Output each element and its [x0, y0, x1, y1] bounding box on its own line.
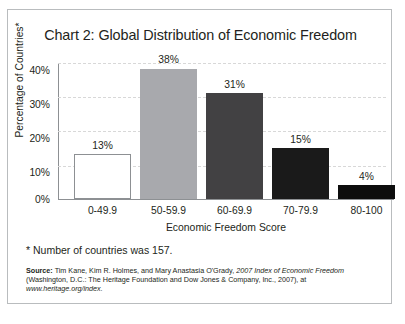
source-line-3: www.heritage.org/index. — [26, 284, 386, 293]
chart-frame: Chart 2: Global Distribution of Economic… — [7, 9, 392, 304]
plot-wrapper: Percentage of Countries* 40% 30% 20% 10%… — [8, 10, 393, 305]
source-title: 2007 Index of Economic Freedom — [236, 266, 344, 275]
plot-area: 13% 38% 31% 15% 4% — [58, 63, 386, 200]
x-tick-label-4: 80-100 — [338, 205, 395, 216]
bar-2[interactable] — [206, 93, 263, 199]
footnote: * Number of countries was 157. — [26, 244, 173, 256]
bar-value-3: 15% — [272, 134, 329, 145]
source-authors: Tim Kane, Kim R. Holmes, and Mary Anasta… — [53, 266, 236, 275]
bar-3[interactable] — [272, 148, 329, 199]
y-tick-label-10: 10% — [14, 167, 50, 178]
bar-value-0: 13% — [74, 140, 131, 151]
source-label: Source: — [26, 266, 53, 275]
x-axis-line — [58, 199, 394, 200]
bar-0[interactable] — [74, 154, 131, 199]
x-tick-label-3: 70-79.9 — [272, 205, 329, 216]
source-citation: Source: Tim Kane, Kim R. Holmes, and Mar… — [26, 266, 386, 293]
x-tick-label-2: 60-69.9 — [206, 205, 263, 216]
bar-1[interactable] — [140, 69, 197, 199]
y-tick-label-40: 40% — [14, 65, 50, 76]
bar-value-1: 38% — [140, 54, 197, 65]
x-tick-label-1: 50-59.9 — [140, 205, 197, 216]
gridline-40 — [58, 63, 386, 64]
source-line-1: Source: Tim Kane, Kim R. Holmes, and Mar… — [26, 266, 386, 275]
source-url[interactable]: www.heritage.org/index. — [26, 284, 103, 293]
source-line-2: (Washington, D.C.: The Heritage Foundati… — [26, 275, 386, 284]
x-tick-label-0: 0-49.9 — [74, 205, 131, 216]
bar-value-2: 31% — [206, 79, 263, 90]
y-tick-label-0: 0% — [14, 194, 50, 205]
y-tick-label-30: 30% — [14, 99, 50, 110]
y-axis-title: Percentage of Countries* — [14, 10, 30, 150]
bar-value-4: 4% — [338, 171, 395, 182]
y-tick-label-20: 20% — [14, 133, 50, 144]
chart-figure: Chart 2: Global Distribution of Economic… — [0, 0, 405, 324]
bar-4[interactable] — [338, 185, 395, 199]
x-axis-title: Economic Freedom Score — [58, 222, 394, 233]
